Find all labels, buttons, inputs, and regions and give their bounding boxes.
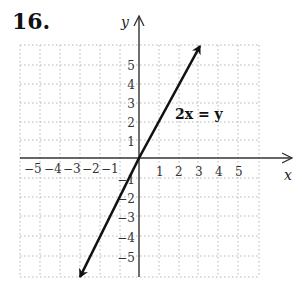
equation-label: 2x = y: [175, 106, 224, 122]
x-tick: −4: [44, 162, 62, 176]
x-tick: 3: [195, 165, 203, 179]
x-axis-label: x: [284, 167, 292, 183]
x-tick: 1: [156, 165, 164, 179]
x-tick: 2: [175, 165, 183, 179]
x-tick: 4: [215, 165, 223, 179]
y-tick: −4: [117, 231, 135, 245]
y-tick: 1: [127, 135, 135, 149]
x-tick: −3: [63, 162, 81, 176]
graph-line-y-equals-2x: [139, 46, 200, 158]
y-tick: 2: [127, 116, 135, 130]
x-tick: −1: [101, 162, 119, 176]
y-axis-label: y: [120, 14, 130, 30]
coordinate-plane: x y −5 −4 −3 −2 −1 1 2 3 4 5 5 4 3 2 1 −…: [0, 0, 302, 290]
x-tick: −5: [24, 162, 42, 176]
x-tick: −2: [82, 162, 100, 176]
y-tick: −3: [117, 211, 135, 225]
x-tick: 5: [235, 165, 243, 179]
y-tick: 5: [127, 59, 135, 73]
y-tick: 4: [127, 78, 135, 92]
y-tick: −5: [117, 251, 135, 265]
y-tick: 3: [127, 97, 135, 111]
